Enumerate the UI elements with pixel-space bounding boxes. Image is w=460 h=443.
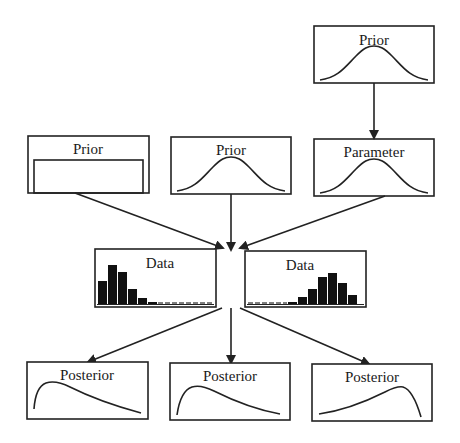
posterior-right-node: Posterior [312,364,432,421]
prior-uniform-node: Prior [28,136,149,193]
data-right-node: Data [245,251,366,307]
data-left-label: Data [146,255,175,271]
arrow-data-to-posterior-left [88,308,222,362]
prior-normal-node: Prior [171,137,291,194]
posterior-right-label: Posterior [345,369,399,385]
prior-normal-label: Prior [216,142,246,158]
data-right-label: Data [286,257,315,273]
data-left-node: Data [95,249,216,307]
posterior-center-node: Posterior [170,363,290,420]
arrow-prior-uniform-to-data [75,193,223,248]
hyper-prior-node: Prior [314,26,434,83]
parameter-label: Parameter [344,144,405,160]
prior-uniform-label: Prior [73,141,103,157]
posterior-center-label: Posterior [203,368,257,384]
arrow-data-to-posterior-right [240,308,369,364]
posterior-left-node: Posterior [27,362,148,419]
posterior-left-label: Posterior [60,367,114,383]
bayesian-diagram: Prior Prior Prior Parameter Data [0,0,460,443]
parameter-node: Parameter [314,139,434,196]
arrow-parameter-to-data [240,196,385,248]
